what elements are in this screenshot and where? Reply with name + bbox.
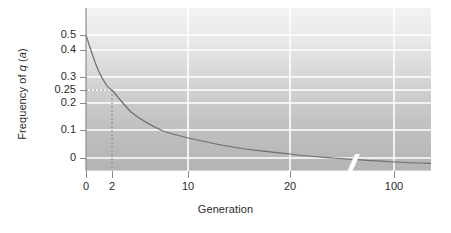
y-tick-label-0.1: 0.1 [42, 124, 76, 135]
x-tick-label-20: 20 [270, 181, 310, 192]
y-axis-title: Frequency of q (a) [16, 14, 28, 174]
y-tick-mark-0.25 [80, 90, 87, 91]
chart-figure: Frequency of q (a) 0.5 0.4 0.3 0.25 0.2 … [0, 0, 451, 233]
x-tick-mark-100 [394, 171, 395, 178]
x-tick-label-2: 2 [92, 181, 132, 192]
y-axis-title-prefix: Frequency of [16, 71, 28, 140]
y-tick-label-0.2: 0.2 [42, 97, 76, 108]
x-tick-mark-2 [112, 171, 113, 178]
x-tick-label-100: 100 [374, 181, 414, 192]
y-tick-mark-0 [80, 158, 87, 159]
y-tick-mark-0.5 [80, 35, 87, 36]
y-axis-title-symbol-q: q [16, 65, 28, 71]
y-tick-label-0.25: 0.25 [42, 84, 76, 95]
y-axis-title-symbol-a: a [16, 52, 28, 58]
x-tick-mark-0 [86, 171, 87, 178]
y-tick-label-0.3: 0.3 [42, 71, 76, 82]
y-tick-label-0.4: 0.4 [42, 44, 76, 55]
y-tick-mark-0.4 [80, 50, 87, 51]
y-tick-label-0: 0 [42, 152, 76, 163]
y-tick-mark-0.2 [80, 103, 87, 104]
x-axis-title: Generation [0, 203, 451, 215]
x-tick-mark-20 [290, 171, 291, 178]
y-axis-title-suffix: ) [16, 48, 28, 52]
x-tick-mark-10 [188, 171, 189, 178]
y-tick-mark-0.1 [80, 130, 87, 131]
y-axis-title-mid: ( [16, 58, 28, 65]
y-tick-label-0.5: 0.5 [42, 29, 76, 40]
y-tick-mark-0.3 [80, 77, 87, 78]
x-tick-label-10: 10 [168, 181, 208, 192]
